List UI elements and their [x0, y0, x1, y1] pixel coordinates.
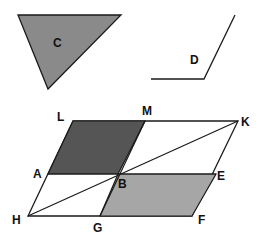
triangle-c: C — [18, 15, 121, 89]
label-d: D — [190, 53, 199, 67]
geometry-diagram: C D L M K A B E H G F — [0, 0, 265, 244]
triangle-c-shape — [18, 15, 121, 89]
parallelogram-figure — [28, 121, 238, 216]
label-h: H — [12, 213, 21, 227]
diagram-svg: C D L M K A B E H G F — [0, 0, 265, 244]
angle-d: D — [151, 15, 235, 79]
label-m: M — [142, 104, 152, 118]
label-e: E — [217, 169, 225, 183]
label-b: B — [118, 177, 127, 191]
label-c: C — [53, 36, 62, 50]
label-a: A — [33, 167, 42, 181]
label-k: K — [241, 115, 250, 129]
label-g: G — [93, 221, 102, 235]
label-l: L — [57, 110, 64, 124]
label-f: F — [198, 213, 205, 227]
angle-d-shape — [151, 15, 235, 79]
